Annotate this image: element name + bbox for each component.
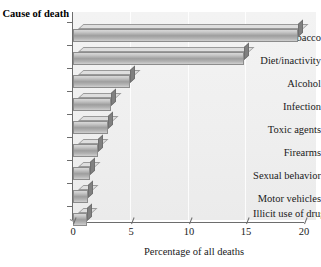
plot-grid-line bbox=[188, 12, 189, 220]
y-axis-tick bbox=[67, 91, 73, 92]
category-label-toxic-agents: Toxic agents bbox=[253, 124, 321, 135]
bar-toxic-agents bbox=[73, 121, 108, 134]
bar-motor-vehicles bbox=[73, 190, 88, 203]
bar-diet-inactivity bbox=[73, 52, 244, 65]
bar-front-face bbox=[73, 29, 298, 42]
y-axis-tick bbox=[67, 68, 73, 69]
x-tick-label-10: 10 bbox=[178, 226, 200, 237]
bar-chart: Cause of death Tobacco Diet/inactivity A… bbox=[0, 0, 321, 267]
bar-front-face bbox=[73, 190, 88, 203]
category-label-illicit-drugs: Illicit use of drugs bbox=[253, 208, 321, 219]
y-axis-line bbox=[72, 12, 73, 220]
bar-front-face bbox=[73, 121, 108, 134]
x-tick-label-15: 15 bbox=[235, 226, 257, 237]
x-tick-label-5: 5 bbox=[120, 226, 142, 237]
y-axis-tick bbox=[67, 183, 73, 184]
y-axis-tick bbox=[67, 137, 73, 138]
bar-infection bbox=[73, 98, 111, 111]
bar-sexual-behavior bbox=[73, 167, 90, 180]
x-tick-label-20: 20 bbox=[293, 226, 315, 237]
bar-alcohol bbox=[73, 75, 130, 88]
x-tick-label-0: 0 bbox=[62, 226, 84, 237]
y-axis-tick bbox=[67, 45, 73, 46]
bar-front-face bbox=[73, 52, 244, 65]
category-label-infection: Infection bbox=[253, 101, 321, 112]
plot-grid-line bbox=[245, 12, 246, 220]
y-axis-tick bbox=[67, 206, 73, 207]
y-axis-tick bbox=[67, 22, 73, 23]
bar-front-face bbox=[73, 75, 130, 88]
y-axis-tick bbox=[67, 114, 73, 115]
category-label-motor-vehicles: Motor vehicles bbox=[253, 193, 321, 204]
category-label-firearms: Firearms bbox=[253, 147, 321, 158]
bar-tobacco bbox=[73, 29, 298, 42]
y-axis-title: Cause of death bbox=[0, 8, 69, 19]
category-label-sexual-behavior: Sexual behavior bbox=[253, 170, 321, 181]
bar-front-face bbox=[73, 98, 111, 111]
x-axis-title: Percentage of all deaths bbox=[72, 246, 316, 257]
bar-front-face bbox=[73, 144, 98, 157]
category-label-diet: Diet/inactivity bbox=[253, 55, 321, 66]
category-label-alcohol: Alcohol bbox=[253, 78, 321, 89]
plot-grid-line bbox=[130, 12, 131, 220]
y-axis-tick bbox=[67, 160, 73, 161]
bar-firearms bbox=[73, 144, 98, 157]
bar-front-face bbox=[73, 167, 90, 180]
